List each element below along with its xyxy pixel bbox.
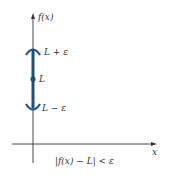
epsilon-interval-diagram: f(x) x L + ε L L − ε |f(x) − L| < ε	[0, 0, 171, 183]
x-axis-arrow-icon	[151, 142, 157, 146]
y-axis-label: f(x)	[37, 12, 54, 22]
limit-point-icon	[30, 76, 35, 81]
limit-label: L	[38, 74, 45, 84]
y-axis-arrow-icon	[31, 13, 35, 19]
x-axis-label: x	[152, 147, 157, 157]
x-axis	[12, 142, 157, 146]
upper-bound-label: L + ε	[43, 47, 68, 57]
diagram-canvas: f(x) x L + ε L L − ε |f(x) − L| < ε	[0, 0, 171, 183]
epsilon-interval	[26, 50, 40, 110]
lower-bound-label: L − ε	[41, 103, 66, 113]
caption: |f(x) − L| < ε	[55, 156, 114, 167]
